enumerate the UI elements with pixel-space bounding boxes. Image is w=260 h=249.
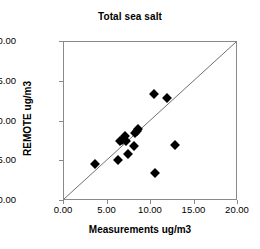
x-axis-tick-mark <box>150 200 151 204</box>
y-axis-tick-label: 10.00 <box>0 116 16 126</box>
x-axis-tick-mark <box>237 200 238 204</box>
data-point <box>90 159 100 169</box>
data-point <box>150 90 160 100</box>
x-axis-tick-label: 20.00 <box>207 205 260 215</box>
x-axis-tick-mark <box>107 200 108 204</box>
y-axis-tick-label: 20.00 <box>0 36 16 46</box>
y-axis-tick-label: 15.00 <box>0 76 16 86</box>
data-point <box>129 141 139 151</box>
y-axis-tick-label: 0.00 <box>0 195 16 205</box>
y-axis-tick-label: 5.00 <box>0 156 16 166</box>
plot-area <box>63 41 237 200</box>
y-axis-title: REMOTE ug/m3 <box>22 39 33 199</box>
scatter-plot-figure: Total sea salt REMOTE ug/m3 Measurements… <box>0 0 260 249</box>
data-point <box>123 149 133 159</box>
data-point <box>162 93 172 103</box>
data-point <box>150 168 160 178</box>
chart-title: Total sea salt <box>0 11 260 22</box>
data-point <box>170 140 180 150</box>
data-series-layer <box>64 42 236 199</box>
x-axis-title: Measurements ug/m3 <box>30 224 250 235</box>
x-axis-tick-mark <box>63 200 64 204</box>
x-axis-tick-mark <box>194 200 195 204</box>
data-point <box>113 156 123 166</box>
